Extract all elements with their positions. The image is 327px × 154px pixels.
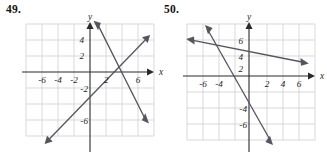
xtick-label-49-4: 6	[136, 75, 141, 85]
problem-50-graph: -6 -4 2 4 6 6 4 2 -4 -6 y x	[183, 22, 315, 152]
x-axis-label-50: x	[319, 71, 325, 81]
xtick-label-50-0: -6	[199, 79, 207, 89]
problem-50-number: 50.	[164, 3, 179, 15]
y-axis-label-50: y	[246, 12, 252, 22]
y-axis-label-49: y	[87, 12, 93, 22]
xtick-label-50-1: -4	[215, 79, 223, 89]
y-axis-50	[245, 22, 252, 152]
ytick-label-49-3: -6	[80, 116, 88, 126]
ytick-label-50-0: 6	[238, 36, 243, 46]
worksheet-page: 49.	[0, 0, 327, 154]
ytick-label-50-3: -4	[239, 104, 247, 114]
xtick-label-50-2: 2	[265, 79, 270, 89]
ytick-label-50-2: 2	[238, 64, 243, 74]
xtick-label-49-2: -2	[70, 75, 78, 85]
ytick-label-49-0: 4	[79, 35, 84, 45]
coordinate-plane-50: -6 -4 2 4 6 6 4 2 -4 -6 y x	[183, 22, 315, 152]
problem-49-panel: 49.	[0, 0, 163, 154]
xtick-label-49-3: 2	[104, 75, 109, 85]
line-positive-49	[45, 35, 151, 144]
ytick-label-50-4: -6	[239, 120, 247, 130]
xtick-label-50-4: 6	[297, 79, 302, 89]
problem-49-number: 49.	[6, 3, 21, 15]
line-shallow-negative-50	[186, 37, 309, 66]
xtick-label-49-1: -4	[54, 75, 62, 85]
ytick-label-49-1: 2	[79, 51, 84, 61]
xtick-label-49-0: -6	[38, 75, 46, 85]
xtick-label-50-3: 4	[281, 79, 286, 89]
ytick-label-50-1: 4	[238, 52, 243, 62]
problem-49-graph: -6 -4 -2 2 6 4 2 -2 -6 y x	[22, 22, 154, 152]
problem-50-panel: 50.	[163, 0, 326, 154]
ytick-label-49-2: -2	[80, 84, 88, 94]
coordinate-plane-49: -6 -4 -2 2 6 4 2 -2 -6 y x	[22, 22, 154, 152]
